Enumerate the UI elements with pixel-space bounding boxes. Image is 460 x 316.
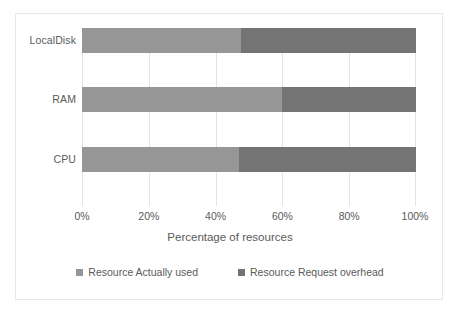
legend-label-overhead: Resource Request overhead (250, 266, 384, 278)
y-axis-category-labels: LocalDisk RAM CPU (16, 28, 76, 206)
legend-label-used: Resource Actually used (88, 266, 198, 278)
bar-segment-cpu-overhead[interactable] (239, 147, 416, 172)
x-axis-tick-labels: 0% 20% 40% 60% 80% 100% (82, 210, 416, 226)
x-axis-title: Percentage of resources (16, 231, 444, 243)
bar-segment-localdisk-used[interactable] (82, 28, 241, 53)
bar-row-ram[interactable] (82, 87, 416, 112)
gridline-40 (216, 28, 217, 206)
x-tick-80: 80% (339, 210, 360, 222)
plot-area (82, 28, 416, 206)
x-tick-100: 100% (402, 210, 429, 222)
y-axis-label-cpu: CPU (16, 153, 76, 165)
bar-segment-cpu-used[interactable] (82, 147, 239, 172)
gridline-60 (282, 28, 283, 206)
bar-segment-localdisk-overhead[interactable] (241, 28, 416, 53)
x-tick-0: 0% (74, 210, 89, 222)
legend-item-resource-request-overhead[interactable]: Resource Request overhead (238, 266, 384, 278)
legend-swatch-icon-used (76, 269, 83, 276)
legend-item-resource-actually-used[interactable]: Resource Actually used (76, 266, 198, 278)
gridline-80 (349, 28, 350, 206)
x-tick-40: 40% (205, 210, 226, 222)
bar-row-localdisk[interactable] (82, 28, 416, 53)
legend-swatch-icon-overhead (238, 269, 245, 276)
y-axis-label-ram: RAM (16, 93, 76, 105)
y-axis-label-localdisk: LocalDisk (16, 34, 76, 46)
x-tick-60: 60% (272, 210, 293, 222)
bar-row-cpu[interactable] (82, 147, 416, 172)
bar-segment-ram-used[interactable] (82, 87, 282, 112)
chart-plot-wrapper: LocalDisk RAM CPU (16, 14, 444, 301)
gridline-20 (149, 28, 150, 206)
gridline-100 (415, 28, 416, 206)
chart-container: LocalDisk RAM CPU (15, 13, 443, 300)
bar-segment-ram-overhead[interactable] (282, 87, 416, 112)
x-tick-20: 20% (138, 210, 159, 222)
gridline-0 (82, 28, 83, 206)
chart-legend: Resource Actually used Resource Request … (16, 266, 444, 278)
